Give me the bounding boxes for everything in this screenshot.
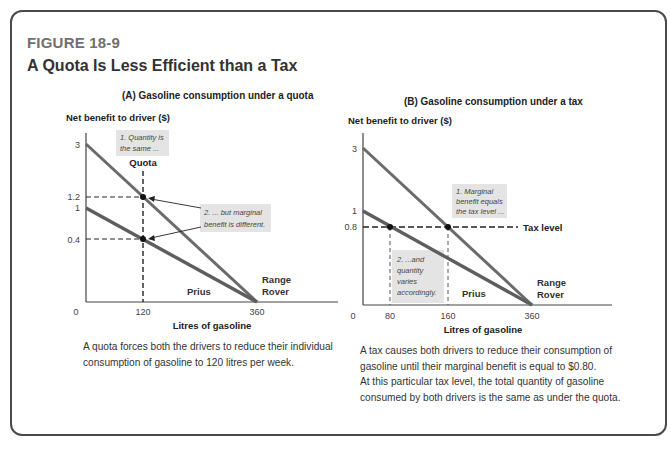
panel-b-note1-line: 1. Marginal	[456, 187, 493, 196]
panel-a-arrowhead-icon	[148, 235, 155, 241]
panel-a-xtick: 120	[135, 307, 150, 317]
panel-a-xtick: 0	[73, 307, 78, 317]
panel-b-note2-line: varies	[397, 277, 417, 286]
panel-b-rover-label: Rover	[537, 289, 564, 300]
panel-a-rover-label: Rover	[262, 286, 289, 297]
panel-b-xtick: 360	[524, 311, 539, 321]
panel-b-caption: A tax causes both drivers to reduce thei…	[360, 343, 620, 405]
caption-line: A tax causes both drivers to reduce thei…	[360, 343, 620, 359]
panel-a-point-range-rover	[140, 194, 146, 200]
panel-a-note1-line: 1. Quantity is	[120, 133, 164, 142]
panel-a-note2-line: 2. ... but marginal	[203, 208, 262, 217]
panel-a-point-prius	[140, 236, 146, 242]
panel-b-note2-line: accordingly.	[397, 288, 436, 297]
panel-b-note1-line: benefit equals	[456, 197, 503, 206]
panel-b-point-range-rover	[445, 224, 451, 230]
panel-a-note1-line: the same ...	[120, 144, 159, 153]
caption-line: consumed by both drivers is the same as …	[360, 390, 620, 406]
caption-line: consumption of gasoline to 120 litres pe…	[83, 355, 333, 371]
panel-a-note2-line: benefit is different.	[204, 220, 265, 229]
panel-b-ylabel: Net benefit to driver ($)	[348, 115, 452, 126]
panel-a-prius-label: Prius	[187, 286, 211, 297]
panel-a-ylabel: Net benefit to driver ($)	[66, 112, 170, 123]
panel-a-chart: Net benefit to driver ($) 3 1.2 1 0.4 0 …	[66, 112, 338, 331]
panel-a-xtick: 360	[249, 307, 264, 317]
panel-b-xtick: 80	[385, 311, 395, 321]
panel-b-xlabel: Litres of gasoline	[444, 324, 523, 335]
panel-a-caption: A quota forces both the drivers to reduc…	[83, 339, 333, 370]
panel-b-chart: Net benefit to driver ($) 3 1 0.8 0 80 1…	[344, 115, 612, 335]
caption-line: At this particular tax level, the total …	[360, 374, 620, 390]
panel-a-ytick: 0.4	[67, 235, 80, 245]
panel-a-ytick: 1	[75, 203, 80, 213]
panel-b-range-label: Range	[537, 277, 566, 288]
panel-b-ytick: 0.8	[344, 222, 357, 232]
panel-b-point-prius	[387, 224, 393, 230]
panel-a-xlabel: Litres of gasoline	[173, 320, 252, 331]
panel-b-ytick: 1	[352, 206, 357, 216]
panel-a-arrow-1	[151, 199, 201, 208]
caption-line: gasoline until their marginal benefit is…	[360, 359, 620, 375]
panel-a-ytick: 1.2	[67, 192, 80, 202]
panel-b-note2-line: 2. ...and	[396, 255, 425, 264]
panel-a-ytick: 3	[75, 140, 80, 150]
caption-line: A quota forces both the drivers to reduc…	[83, 339, 333, 355]
panel-b-ytick: 3	[352, 144, 357, 154]
panel-b-xtick: 0	[350, 311, 355, 321]
panel-b-xtick: 160	[440, 311, 455, 321]
panel-b-note2-line: quantity	[397, 266, 425, 275]
panel-a-quota-label: Quota	[129, 157, 157, 168]
panel-b-prius-label: Prius	[462, 288, 486, 299]
panel-b-tax-label: Tax level	[523, 222, 562, 233]
panel-a-range-label: Range	[262, 274, 291, 285]
panel-b-note1-line: the tax level ...	[456, 207, 504, 216]
